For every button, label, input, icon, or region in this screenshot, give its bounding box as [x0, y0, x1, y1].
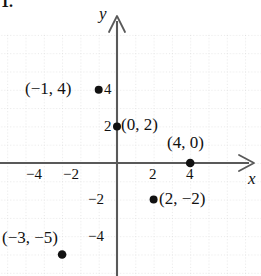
y-tick-label-neg4: −4	[88, 229, 104, 244]
x-tick-label-4: 4	[186, 167, 194, 182]
point-neg1-4	[95, 86, 103, 94]
y-tick-label-2: 2	[104, 119, 112, 134]
point-label-4-0: (4, 0)	[167, 134, 204, 151]
x-tick-label-neg4: −4	[26, 167, 42, 182]
point-label-2-neg2: (2, −2)	[159, 190, 205, 207]
point-label-0-2: (0, 2)	[121, 116, 158, 133]
point-label-neg1-4: (−1, 4)	[25, 80, 71, 97]
coordinate-plane-figure: 1. y	[0, 0, 261, 276]
point-neg3-neg5	[58, 250, 67, 259]
point-0-2	[113, 122, 121, 130]
y-tick-label-4: 4	[104, 82, 112, 97]
x-tick-label-neg2: −2	[63, 167, 79, 182]
point-2-neg2	[150, 196, 158, 204]
point-label-neg3-neg5: (−3, −5)	[2, 229, 58, 246]
x-axis-label: x	[248, 170, 256, 187]
y-axis-label: y	[99, 5, 107, 22]
y-tick-label-neg2: −2	[88, 192, 104, 207]
x-tick-label-2: 2	[149, 167, 157, 182]
